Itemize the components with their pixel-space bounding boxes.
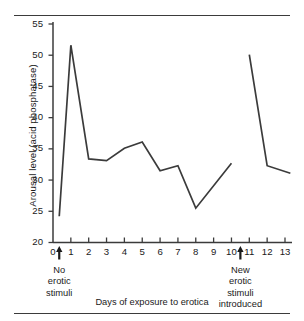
y-tick-label-20: 20 bbox=[17, 236, 43, 247]
x-tick-label-1: 1 bbox=[62, 246, 80, 257]
x-tick-label-11: 11 bbox=[240, 246, 258, 257]
x-tick-label-10: 10 bbox=[222, 246, 240, 257]
annotation-right-line-2: erotic bbox=[203, 276, 277, 287]
y-tick-label-55: 55 bbox=[17, 18, 43, 29]
annotation-right-line-1: New bbox=[203, 265, 277, 276]
x-tick-label-7: 7 bbox=[169, 246, 187, 257]
y-tick-label-50: 50 bbox=[17, 49, 43, 60]
annotation-right-line-4: introduced bbox=[203, 299, 277, 310]
annotation-new-erotic-stimuli: New erotic stimuli introduced bbox=[203, 265, 277, 311]
y-tick-label-25: 25 bbox=[17, 205, 43, 216]
x-tick-label-4: 4 bbox=[115, 246, 133, 257]
y-axis-title: Arousal level (acid phosphatase) bbox=[27, 41, 38, 231]
x-tick-label-2: 2 bbox=[80, 246, 98, 257]
y-tick-label-40: 40 bbox=[17, 111, 43, 122]
x-tick-label-5: 5 bbox=[133, 246, 151, 257]
annotation-left-line-2: erotic bbox=[22, 276, 96, 287]
data-line-segment-2 bbox=[249, 55, 290, 174]
x-tick-label-0: 0 bbox=[44, 246, 62, 257]
x-tick-label-8: 8 bbox=[187, 246, 205, 257]
y-tick-label-30: 30 bbox=[17, 174, 43, 185]
data-line-segment-1 bbox=[59, 45, 231, 216]
annotation-no-erotic-stimuli: No erotic stimuli bbox=[22, 265, 96, 299]
annotation-right-line-3: stimuli bbox=[203, 288, 277, 299]
chart-figure: Arousal level (acid phosphatase) Days of… bbox=[0, 0, 304, 321]
x-tick-label-3: 3 bbox=[98, 246, 116, 257]
x-tick-label-6: 6 bbox=[151, 246, 169, 257]
annotation-left-line-3: stimuli bbox=[22, 288, 96, 299]
y-tick-label-35: 35 bbox=[17, 142, 43, 153]
x-tick-label-9: 9 bbox=[205, 246, 223, 257]
annotation-left-line-1: No bbox=[22, 265, 96, 276]
data-series-lines bbox=[59, 45, 290, 216]
y-tick-label-45: 45 bbox=[17, 80, 43, 91]
x-tick-label-13: 13 bbox=[276, 246, 294, 257]
x-tick-label-12: 12 bbox=[258, 246, 276, 257]
